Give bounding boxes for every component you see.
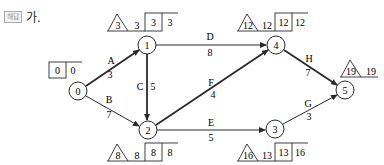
svg-text:12: 12: [262, 20, 272, 31]
svg-text:G: G: [304, 98, 311, 109]
svg-text:F: F: [208, 77, 214, 88]
svg-text:H: H: [305, 53, 312, 64]
svg-text:8: 8: [116, 150, 121, 161]
node-0: 0: [69, 82, 87, 100]
svg-text:8: 8: [208, 47, 213, 58]
svg-text:E: E: [208, 117, 214, 128]
svg-text:8: 8: [168, 147, 173, 158]
svg-text:19: 19: [366, 66, 376, 77]
svg-text:16: 16: [295, 147, 305, 158]
svg-text:3: 3: [168, 17, 173, 28]
svg-text:8: 8: [135, 150, 140, 161]
svg-text:A: A: [107, 55, 115, 66]
svg-text:4: 4: [274, 40, 279, 51]
svg-text:12: 12: [295, 17, 305, 28]
node-2: 2: [139, 121, 157, 139]
svg-text:12: 12: [279, 17, 289, 28]
edge-F: F 4: [156, 50, 268, 125]
svg-text:3: 3: [151, 17, 156, 28]
node-4: 4: [267, 36, 285, 54]
svg-text:C: C: [137, 81, 144, 92]
node-1: 1: [138, 36, 156, 54]
svg-text:7: 7: [306, 67, 311, 78]
svg-text:16: 16: [243, 150, 253, 161]
svg-text:3: 3: [108, 69, 113, 80]
svg-text:5: 5: [151, 81, 156, 92]
svg-text:D: D: [206, 31, 213, 42]
svg-text:0: 0: [71, 65, 76, 76]
svg-text:5: 5: [343, 85, 348, 96]
network-diagram: A 3 B 7 C 5 D 8 E 5 F 4 G 3 H 7 0: [0, 0, 384, 165]
node-3: 3: [266, 120, 284, 138]
svg-text:3: 3: [307, 111, 312, 122]
svg-text:5: 5: [209, 132, 214, 143]
node-5: 5: [336, 81, 354, 99]
svg-text:0: 0: [55, 65, 60, 76]
annotation-node-1: 3 3 3 3: [107, 13, 178, 31]
svg-text:3: 3: [116, 20, 121, 31]
svg-text:0: 0: [76, 86, 81, 97]
edge-H: H 7: [284, 50, 337, 85]
svg-text:3: 3: [273, 124, 278, 135]
annotation-node-2: 8 8 8 8: [107, 143, 178, 161]
svg-text:2: 2: [146, 125, 151, 136]
svg-text:12: 12: [243, 20, 253, 31]
annotation-node-3: 16 13 13 16: [237, 143, 308, 161]
svg-text:13: 13: [262, 150, 272, 161]
annotation-node-0: 0 0: [49, 62, 82, 78]
edge-B: B 7: [86, 94, 139, 126]
svg-text:19: 19: [346, 66, 356, 77]
annotation-node-5: 19 19: [340, 60, 378, 77]
edge-G: G 3: [283, 95, 337, 124]
svg-text:1: 1: [145, 40, 150, 51]
edge-C: C 5: [137, 54, 156, 120]
svg-text:4: 4: [211, 89, 216, 100]
svg-text:B: B: [106, 94, 113, 105]
svg-text:13: 13: [279, 147, 289, 158]
edge-D: D 8: [156, 31, 266, 58]
svg-text:7: 7: [107, 109, 112, 120]
edge-A: A 3: [86, 50, 139, 86]
svg-text:3: 3: [135, 20, 140, 31]
svg-text:8: 8: [151, 147, 156, 158]
annotation-node-4: 12 12 12 12: [237, 13, 308, 31]
edge-E: E 5: [157, 117, 265, 143]
